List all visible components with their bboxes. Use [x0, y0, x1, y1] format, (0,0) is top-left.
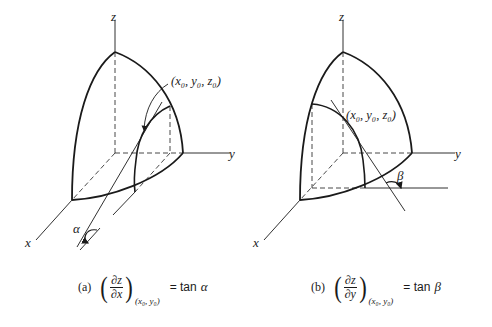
rhs-text-a: = tan: [170, 280, 197, 294]
rhs-symbol-a: α: [201, 279, 208, 294]
angle-label-alpha: α: [73, 222, 80, 235]
panel-a-drawing: [36, 20, 230, 250]
surface-yz-trace-b: [343, 52, 412, 153]
angle-arc-alpha: [85, 230, 97, 243]
paren-close-a: ): [125, 272, 133, 302]
surface-xy-trace-b: [300, 153, 412, 200]
rhs-symbol-b: β: [434, 279, 440, 294]
y-axis-label-a: y: [229, 147, 235, 160]
numerator-b: ∂z: [344, 274, 357, 288]
paren-close-b: ): [359, 272, 367, 302]
z-axis-label-a: z: [111, 10, 116, 23]
partial-derivative-a: ∂z ∂x: [110, 274, 123, 300]
equation-rhs-a: = tanα: [170, 279, 208, 295]
evaluation-point-b: (x₀, y₀): [369, 296, 394, 306]
surface-xz-trace-a: [72, 52, 115, 200]
evaluation-point-a: (x₀, y₀): [135, 296, 160, 306]
parallel-x-line-a: [113, 192, 135, 215]
paren-open-b: (: [334, 272, 342, 302]
surface-xz-trace-b: [300, 52, 343, 200]
z-axis-label-b: z: [339, 10, 344, 23]
partial-derivative-b: ∂z ∂y: [344, 274, 357, 300]
rhs-text-b: = tan: [403, 280, 430, 294]
x-axis-hidden-b: [300, 153, 343, 200]
equation-rhs-b: = tanβ: [403, 279, 441, 295]
tangent-line-a: [77, 102, 162, 247]
x-axis-a: [36, 200, 72, 240]
projection-diagonal-a: [135, 153, 170, 192]
panel-b-drawing: [264, 20, 455, 240]
angle-label-beta: β: [397, 169, 403, 182]
caption-tag-a: (a): [78, 280, 91, 295]
numerator-a: ∂z: [110, 274, 123, 288]
x-axis-b: [264, 200, 300, 240]
x-axis-label-b: x: [253, 236, 259, 249]
caption-tag-b: (b): [311, 280, 325, 295]
paren-open-a: (: [101, 272, 109, 302]
denominator-b: ∂y: [345, 288, 356, 301]
surface-yz-trace-a: [115, 52, 183, 153]
caption-a: (a) ( ∂z ∂x ) (x₀, y₀) = tanα: [78, 272, 208, 302]
point-label-a: (x₀, y₀, z₀): [171, 75, 221, 88]
denominator-a: ∂x: [111, 288, 122, 301]
point-label-b: (x₀, y₀, z₀): [346, 109, 396, 122]
x-axis-label-a: x: [25, 236, 31, 249]
caption-b: (b) ( ∂z ∂y ) (x₀, y₀) = tanβ: [311, 272, 441, 302]
reference-line-a: [80, 228, 100, 250]
y-axis-label-b: y: [455, 147, 461, 160]
